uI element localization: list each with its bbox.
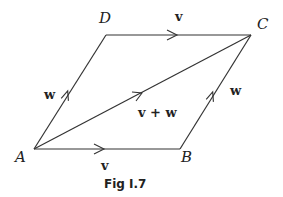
vector-label-ad: w xyxy=(43,87,56,102)
vector-label-bc: w xyxy=(229,83,242,98)
point-label-c: C xyxy=(257,15,269,33)
vector-label-ab: v xyxy=(100,158,109,173)
vector-label-ac: v + w xyxy=(137,105,177,120)
point-label-a: A xyxy=(13,148,26,166)
vector-label-dc: v xyxy=(174,9,183,24)
figure-caption: Fig I.7 xyxy=(104,177,146,191)
point-label-d: D xyxy=(98,9,111,27)
point-label-b: B xyxy=(180,148,192,166)
parallelogram-diagram: A B C D v v w w v + w Fig I.7 xyxy=(0,0,283,197)
